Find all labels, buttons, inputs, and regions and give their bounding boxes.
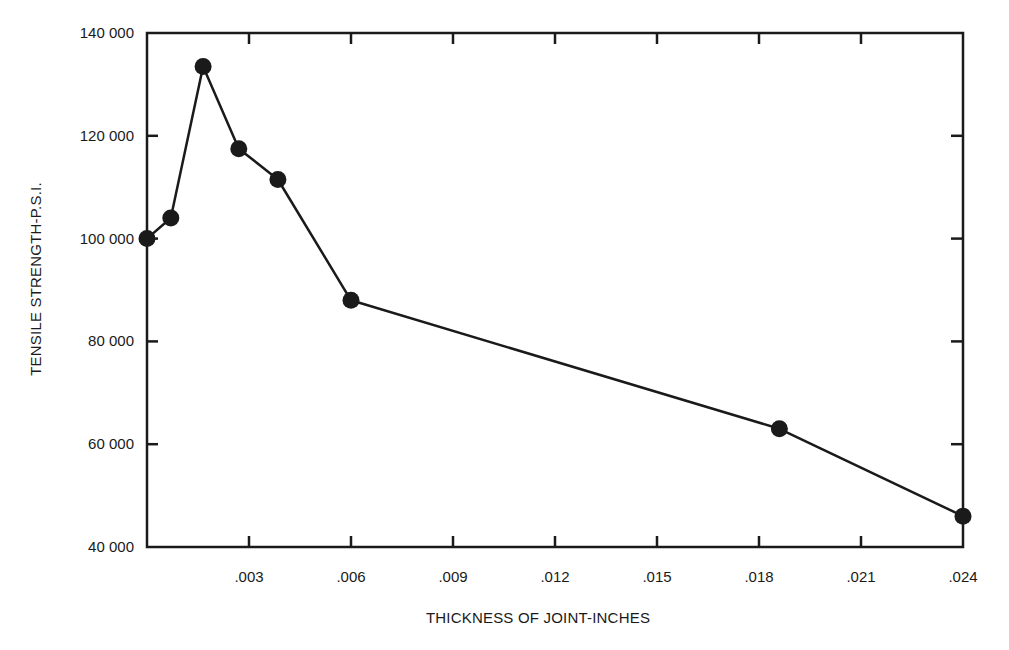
data-point-marker (195, 58, 212, 75)
x-axis-ticks: .003.006.009.012.015.018.021.024 (234, 33, 977, 585)
y-axis-ticks: 40 00060 00080 000100 000120 000140 000 (80, 24, 963, 555)
y-tick-label: 60 000 (88, 435, 134, 452)
y-tick-label: 140 000 (80, 24, 134, 41)
data-markers (139, 58, 972, 525)
data-point-marker (139, 230, 156, 247)
y-tick-label: 100 000 (80, 230, 134, 247)
x-axis-title: THICKNESS OF JOINT-INCHES (426, 609, 650, 626)
x-tick-label: .012 (540, 568, 569, 585)
x-tick-label: .021 (846, 568, 875, 585)
data-point-marker (230, 140, 247, 157)
plot-frame (147, 33, 963, 547)
x-tick-label: .018 (744, 568, 773, 585)
chart: 40 00060 00080 000100 000120 000140 000 … (0, 0, 1009, 650)
y-tick-label: 40 000 (88, 538, 134, 555)
data-point-marker (269, 171, 286, 188)
y-axis-title: TENSILE STRENGTH-P.S.I. (27, 182, 44, 376)
data-point-marker (771, 420, 788, 437)
x-tick-label: .015 (642, 568, 671, 585)
data-point-marker (955, 508, 972, 525)
x-tick-label: .006 (336, 568, 365, 585)
x-tick-label: .003 (234, 568, 263, 585)
y-tick-label: 80 000 (88, 332, 134, 349)
x-tick-label: .024 (948, 568, 977, 585)
x-tick-label: .009 (438, 568, 467, 585)
y-tick-label: 120 000 (80, 127, 134, 144)
data-point-marker (162, 210, 179, 227)
data-line (147, 66, 963, 516)
series-line (147, 66, 963, 516)
data-point-marker (343, 292, 360, 309)
